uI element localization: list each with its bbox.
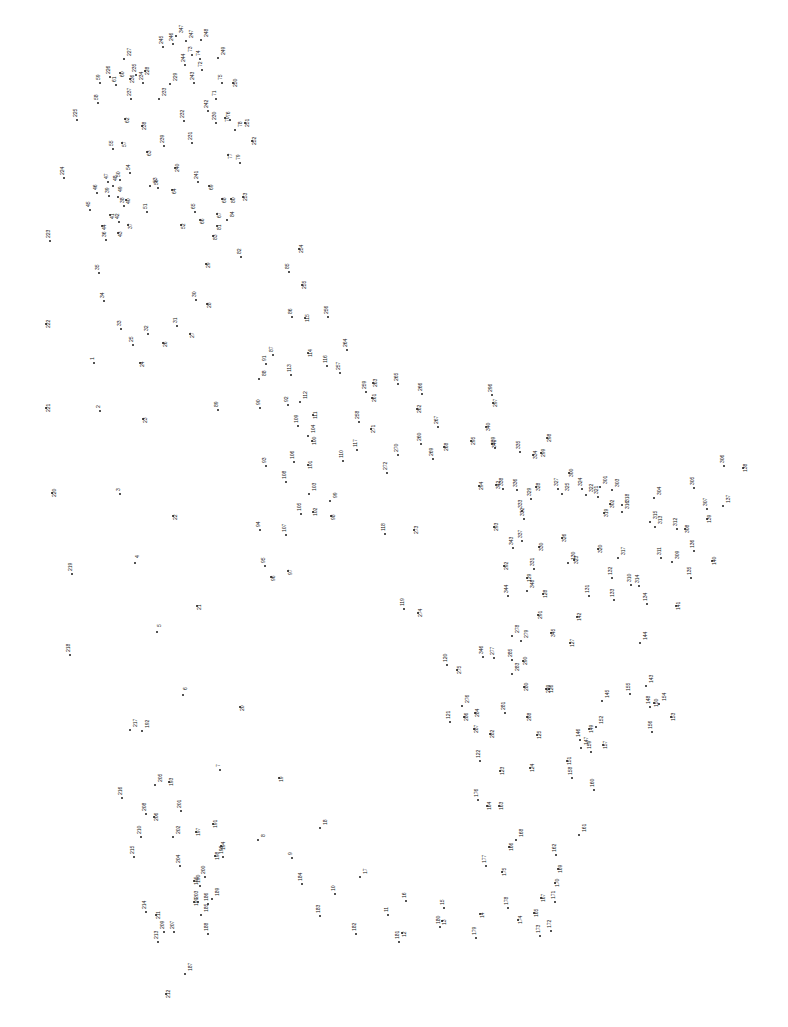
puzzle-dot[interactable] — [154, 784, 157, 787]
puzzle-dot[interactable] — [555, 854, 558, 857]
puzzle-dot[interactable] — [630, 584, 633, 587]
puzzle-dot[interactable] — [219, 769, 222, 772]
puzzle-dot[interactable] — [365, 391, 368, 394]
puzzle-dot[interactable] — [358, 421, 361, 424]
puzzle-dot[interactable] — [285, 534, 288, 537]
puzzle-dot[interactable] — [265, 363, 268, 366]
puzzle-dot[interactable] — [326, 365, 329, 368]
puzzle-dot[interactable] — [329, 500, 332, 503]
puzzle-dot[interactable] — [398, 941, 401, 944]
puzzle-dot[interactable] — [443, 907, 446, 910]
puzzle-dot[interactable] — [515, 839, 518, 842]
puzzle-dot[interactable] — [119, 493, 122, 496]
puzzle-dot[interactable] — [176, 325, 179, 328]
puzzle-dot[interactable] — [580, 747, 583, 750]
puzzle-dot[interactable] — [601, 700, 604, 703]
puzzle-dot[interactable] — [194, 211, 197, 214]
puzzle-dot[interactable] — [112, 148, 115, 151]
puzzle-dot[interactable] — [561, 493, 564, 496]
puzzle-dot[interactable] — [288, 271, 291, 274]
puzzle-dot[interactable] — [646, 603, 649, 606]
puzzle-dot[interactable] — [105, 239, 108, 242]
puzzle-dot[interactable] — [693, 487, 696, 490]
puzzle-dot[interactable] — [234, 129, 237, 132]
puzzle-dot[interactable] — [649, 521, 652, 524]
puzzle-dot[interactable] — [107, 181, 110, 184]
puzzle-dot[interactable] — [146, 211, 149, 214]
puzzle-dot[interactable] — [649, 706, 652, 709]
puzzle-dot[interactable] — [199, 58, 202, 61]
puzzle-dot[interactable] — [550, 930, 553, 933]
puzzle-dot[interactable] — [173, 931, 176, 934]
puzzle-dot[interactable] — [690, 577, 693, 580]
puzzle-dot[interactable] — [654, 526, 657, 529]
puzzle-dot[interactable] — [211, 898, 214, 901]
puzzle-dot[interactable] — [215, 122, 218, 125]
puzzle-dot[interactable] — [639, 642, 642, 645]
puzzle-dot[interactable] — [191, 142, 194, 145]
puzzle-dot[interactable] — [629, 693, 632, 696]
puzzle-dot[interactable] — [511, 635, 514, 638]
puzzle-dot[interactable] — [420, 443, 423, 446]
puzzle-dot[interactable] — [201, 69, 204, 72]
puzzle-dot[interactable] — [226, 219, 229, 222]
puzzle-dot[interactable] — [184, 973, 187, 976]
puzzle-dot[interactable] — [182, 694, 185, 697]
puzzle-dot[interactable] — [115, 84, 118, 87]
puzzle-dot[interactable] — [172, 836, 175, 839]
puzzle-dot[interactable] — [533, 568, 536, 571]
puzzle-dot[interactable] — [671, 561, 674, 564]
puzzle-dot[interactable] — [172, 43, 175, 46]
puzzle-dot[interactable] — [482, 656, 485, 659]
puzzle-dot[interactable] — [706, 508, 709, 511]
puzzle-dot[interactable] — [493, 657, 496, 660]
puzzle-dot[interactable] — [162, 46, 165, 49]
puzzle-dot[interactable] — [405, 900, 408, 903]
puzzle-dot[interactable] — [446, 664, 449, 667]
puzzle-dot[interactable] — [397, 454, 400, 457]
puzzle-dot[interactable] — [356, 449, 359, 452]
puzzle-dot[interactable] — [397, 383, 400, 386]
puzzle-dot[interactable] — [597, 496, 600, 499]
puzzle-dot[interactable] — [479, 760, 482, 763]
puzzle-dot[interactable] — [179, 865, 182, 868]
puzzle-dot[interactable] — [387, 914, 390, 917]
puzzle-dot[interactable] — [132, 344, 135, 347]
puzzle-dot[interactable] — [123, 58, 126, 61]
puzzle-dot[interactable] — [567, 562, 570, 565]
puzzle-dot[interactable] — [579, 739, 582, 742]
puzzle-dot[interactable] — [651, 731, 654, 734]
puzzle-dot[interactable] — [175, 35, 178, 38]
puzzle-dot[interactable] — [93, 362, 96, 365]
puzzle-dot[interactable] — [449, 721, 452, 724]
puzzle-dot[interactable] — [147, 333, 150, 336]
puzzle-dot[interactable] — [621, 511, 624, 514]
puzzle-dot[interactable] — [97, 102, 100, 105]
puzzle-dot[interactable] — [183, 120, 186, 123]
puzzle-dot[interactable] — [123, 205, 126, 208]
puzzle-dot[interactable] — [723, 465, 726, 468]
puzzle-dot[interactable] — [157, 941, 160, 944]
puzzle-dot[interactable] — [141, 730, 144, 733]
puzzle-dot[interactable] — [523, 518, 526, 521]
puzzle-dot[interactable] — [291, 316, 294, 319]
puzzle-dot[interactable] — [342, 460, 345, 463]
puzzle-dot[interactable] — [191, 54, 194, 57]
puzzle-dot[interactable] — [264, 565, 267, 568]
puzzle-dot[interactable] — [193, 82, 196, 85]
puzzle-dot[interactable] — [121, 797, 124, 800]
puzzle-dot[interactable] — [502, 488, 505, 491]
puzzle-dot[interactable] — [207, 110, 210, 113]
puzzle-dot[interactable] — [511, 673, 514, 676]
puzzle-dot[interactable] — [346, 349, 349, 352]
puzzle-dot[interactable] — [432, 458, 435, 461]
puzzle-dot[interactable] — [403, 608, 406, 611]
puzzle-dot[interactable] — [142, 82, 145, 85]
puzzle-dot[interactable] — [308, 493, 311, 496]
puzzle-dot[interactable] — [593, 789, 596, 792]
puzzle-dot[interactable] — [207, 933, 210, 936]
puzzle-dot[interactable] — [89, 209, 92, 212]
puzzle-dot[interactable] — [590, 751, 593, 754]
puzzle-dot[interactable] — [437, 426, 440, 429]
puzzle-dot[interactable] — [49, 240, 52, 243]
